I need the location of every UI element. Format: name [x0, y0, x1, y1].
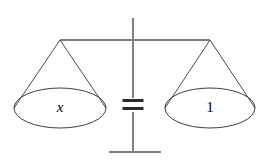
left-pan-label: x — [56, 99, 64, 115]
equals-sign-top-bar — [123, 99, 144, 102]
figure-background — [0, 0, 269, 163]
equals-sign-bottom-bar — [123, 107, 144, 110]
balance-scale-diagram: x 1 — [0, 0, 269, 163]
right-pan-label: 1 — [206, 99, 214, 115]
balance-scale-figure: x 1 — [0, 0, 269, 163]
